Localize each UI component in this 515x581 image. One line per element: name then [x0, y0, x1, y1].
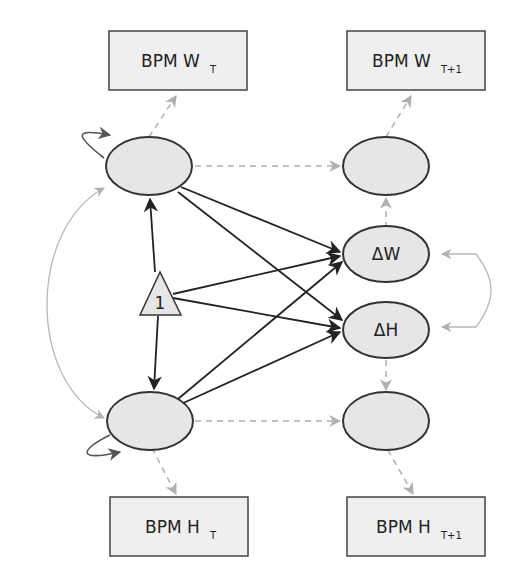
label-bpm-h: BPM H [145, 517, 200, 537]
subscript-t1: T+1 [440, 530, 462, 541]
path-ht-to-bpm-ht [152, 448, 176, 494]
path-ht1-to-bpm-ht1 [388, 450, 413, 494]
observed-bpm-h-t1: BPM H T+1 [347, 497, 485, 556]
path-1-to-dh [173, 298, 340, 328]
variance-loop-wt [82, 133, 110, 158]
subscript-t1: T+1 [440, 64, 462, 75]
latent-delta-h: ΔH [343, 302, 429, 358]
label-delta-w: ΔW [372, 244, 401, 264]
latent-w-t1 [343, 137, 429, 195]
path-wt-to-bpm-wt [149, 96, 176, 137]
path-ht-to-dh [181, 332, 340, 404]
covariance-wt-ht [47, 188, 104, 418]
path-1-to-ht [154, 316, 158, 389]
label-bpm-h: BPM H [376, 517, 431, 537]
observed-bpm-w-t: BPM W T [109, 31, 247, 90]
path-diagram: BPM W T BPM W T+1 BPM H T BPM H T+1 ΔW Δ… [0, 0, 515, 581]
label-bpm-w: BPM W [372, 51, 431, 71]
path-wt1-to-bpm-wt1 [386, 96, 411, 137]
path-wt-to-dw [181, 187, 340, 252]
path-1-to-dw [173, 256, 340, 294]
covariance-dw-dh [442, 254, 491, 327]
subscript-t: T [209, 64, 217, 75]
subscript-t: T [209, 530, 217, 541]
path-ht-to-dw [178, 262, 342, 399]
path-wt-to-dh [178, 192, 342, 320]
label-delta-h: ΔH [374, 320, 398, 340]
latent-h-t [107, 392, 193, 450]
label-bpm-w: BPM W [141, 51, 200, 71]
observed-bpm-w-t1: BPM W T+1 [347, 31, 485, 90]
observed-bpm-h-t: BPM H T [110, 497, 248, 556]
latent-delta-w: ΔW [343, 226, 429, 282]
latent-w-t [106, 137, 192, 195]
path-1-to-wt [150, 199, 155, 272]
label-constant: 1 [155, 293, 166, 313]
latent-h-t1 [343, 392, 429, 450]
